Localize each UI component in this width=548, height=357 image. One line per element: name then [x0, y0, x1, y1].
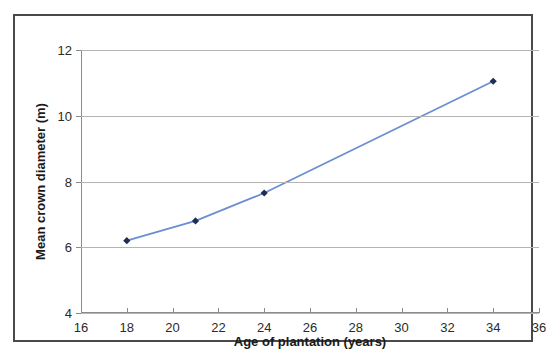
- x-axis-tick: [218, 308, 219, 313]
- x-axis-tick-label: 22: [211, 320, 225, 335]
- x-axis-tick-label: 28: [349, 320, 363, 335]
- x-axis-tick-label: 34: [486, 320, 500, 335]
- chart-frame: Mean crown diameter (m) 4681012161820222…: [13, 14, 533, 342]
- x-axis-tick-label: 18: [120, 320, 134, 335]
- data-point-marker: [192, 217, 199, 224]
- x-axis-tick-label: 16: [74, 320, 88, 335]
- y-gridline: [81, 182, 539, 183]
- x-axis-tick: [264, 308, 265, 313]
- y-gridline: [81, 247, 539, 248]
- y-gridline: [81, 116, 539, 117]
- x-axis-tick-label: 36: [532, 320, 546, 335]
- x-axis-tick: [81, 308, 82, 313]
- y-axis-tick-label: 6: [65, 240, 72, 255]
- x-axis-tick-label: 24: [257, 320, 271, 335]
- x-axis-tick: [493, 308, 494, 313]
- series-line: [127, 81, 493, 240]
- x-axis-tick: [356, 308, 357, 313]
- x-axis-tick: [539, 308, 540, 313]
- y-axis-tick: [76, 182, 81, 183]
- x-axis-tick: [310, 308, 311, 313]
- y-axis-tick: [76, 247, 81, 248]
- x-axis-title: Age of plantation (years): [81, 334, 539, 349]
- x-axis-tick-label: 20: [165, 320, 179, 335]
- y-axis-tick-label: 4: [65, 306, 72, 321]
- y-axis-tick-label: 10: [58, 108, 72, 123]
- x-axis-tick-label: 26: [303, 320, 317, 335]
- y-axis-title-text: Mean crown diameter (m): [33, 103, 48, 260]
- chart-screenshot: Mean crown diameter (m) 4681012161820222…: [0, 0, 548, 357]
- data-point-marker: [261, 189, 268, 196]
- y-gridline: [81, 313, 539, 314]
- y-axis-tick-label: 12: [58, 43, 72, 58]
- x-axis-tick: [402, 308, 403, 313]
- y-axis-tick-label: 8: [65, 174, 72, 189]
- plot-area: 46810121618202224262830323436: [81, 50, 539, 313]
- data-point-marker: [490, 78, 497, 85]
- x-axis-tick-label: 30: [394, 320, 408, 335]
- y-gridline: [81, 50, 539, 51]
- y-axis-tick: [76, 50, 81, 51]
- x-axis-tick-label: 32: [440, 320, 454, 335]
- y-axis-tick: [76, 313, 81, 314]
- x-axis-tick: [127, 308, 128, 313]
- x-axis-tick: [173, 308, 174, 313]
- x-axis-tick: [447, 308, 448, 313]
- y-axis-tick: [76, 116, 81, 117]
- data-point-marker: [123, 237, 130, 244]
- y-axis-title: Mean crown diameter (m): [31, 50, 49, 313]
